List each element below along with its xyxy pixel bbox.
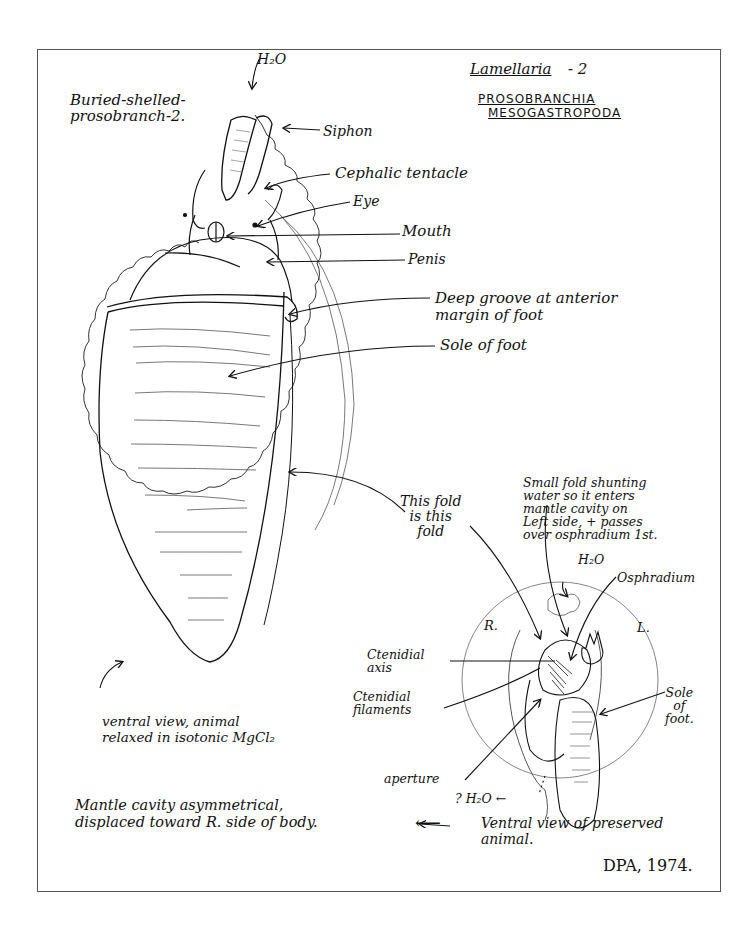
taxonomy-order: MESOGASTROPODA bbox=[488, 106, 621, 121]
label-deep-groove: Deep groove at anterior margin of foot bbox=[435, 290, 618, 324]
genus-suffix: - 2 bbox=[568, 62, 587, 77]
anatomical-drawing bbox=[0, 0, 755, 930]
main-figure-caption: ventral view, animal relaxed in isotonic… bbox=[102, 713, 275, 745]
label-this-fold: This fold is this fold bbox=[400, 494, 462, 539]
label-h2o-out: ? H₂O ← bbox=[455, 792, 506, 805]
label-ctenidial-axis: Ctenidial axis bbox=[367, 648, 424, 674]
label-ctenidial-filaments: Ctenidial filaments bbox=[353, 690, 412, 716]
label-eye: Eye bbox=[353, 194, 379, 209]
mantle-cavity-note: Mantle cavity asymmetrical, displaced to… bbox=[75, 797, 318, 831]
label-penis: Penis bbox=[408, 252, 446, 267]
inset-leader-lines bbox=[420, 505, 665, 826]
drawing-title: Buried-shelled- prosobranch-2. bbox=[70, 92, 186, 124]
arrow-left-icon: ⟵ bbox=[415, 815, 441, 830]
body-anterior bbox=[130, 238, 292, 303]
label-aperture: aperture bbox=[384, 772, 439, 785]
head bbox=[184, 170, 283, 260]
label-siphon: Siphon bbox=[323, 124, 373, 139]
label-osphradium: Osphradium bbox=[617, 571, 695, 584]
inset-figure-caption: Ventral view of preserved animal. bbox=[481, 815, 663, 847]
genus-name: Lamellaria bbox=[470, 62, 551, 77]
taxonomy-class: PROSOBRANCHIA bbox=[478, 92, 596, 107]
label-h2o-in: H₂O bbox=[257, 52, 286, 67]
label-sole-of-foot: Sole of foot bbox=[440, 338, 527, 353]
label-inset-sole-of-foot: Sole of foot. bbox=[665, 686, 694, 725]
label-inset-h2o-in: H₂O bbox=[578, 553, 604, 566]
label-mouth: Mouth bbox=[402, 224, 452, 239]
signature: DPA, 1974. bbox=[603, 858, 693, 873]
label-small-fold-note: Small fold shunting water so it enters m… bbox=[523, 476, 658, 541]
label-right: R. bbox=[484, 618, 498, 633]
label-left: L. bbox=[637, 620, 650, 635]
label-cephalic-tentacle: Cephalic tentacle bbox=[335, 166, 468, 181]
